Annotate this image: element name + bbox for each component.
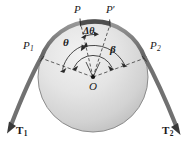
tick-P xyxy=(80,19,81,27)
label-P-prime: P′ xyxy=(106,4,115,15)
label-angle-delta-theta: Δθ xyxy=(83,26,94,36)
belt-element-PPprime xyxy=(80,22,110,24)
label-P1-subscript: 1 xyxy=(30,44,34,53)
label-angle-theta: θ xyxy=(63,37,69,48)
belt-friction-figure: P P′ P1 P2 θ Δθ β O T1 T2 xyxy=(0,0,188,151)
label-T2: T2 xyxy=(162,125,173,138)
label-P1: P1 xyxy=(23,40,34,53)
label-P: P xyxy=(74,4,81,15)
label-T1: T1 xyxy=(16,125,27,138)
label-P1-letter: P xyxy=(23,39,30,51)
label-P-prime-letter: P xyxy=(106,3,113,15)
figure-canvas xyxy=(0,0,188,151)
tick-Pprime xyxy=(110,20,111,28)
label-P2-subscript: 2 xyxy=(157,44,161,53)
label-P2-letter: P xyxy=(150,39,157,51)
belt-free-left xyxy=(12,57,42,124)
belt-free-right xyxy=(145,57,177,126)
label-angle-beta: β xyxy=(110,44,116,55)
label-P-prime-mark: ′ xyxy=(113,3,115,15)
label-center-O: O xyxy=(89,81,97,92)
label-T2-subscript: 2 xyxy=(169,129,173,138)
label-P2: P2 xyxy=(150,40,161,53)
label-T1-subscript: 1 xyxy=(23,129,27,138)
center-point-O xyxy=(91,75,95,79)
arrowhead-T1 xyxy=(7,122,16,134)
